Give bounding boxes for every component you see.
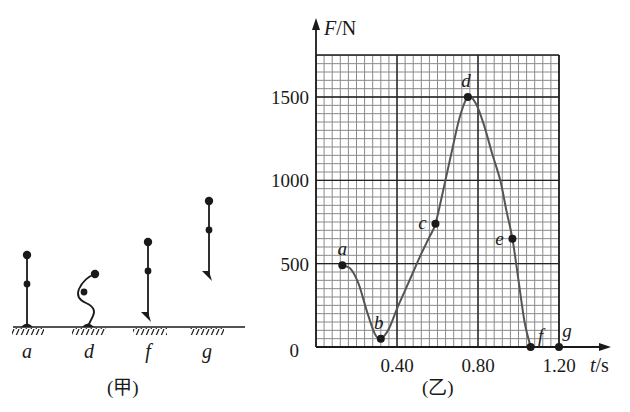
point-label-e: e (495, 228, 503, 249)
stick-figure-f (141, 238, 152, 322)
y-axis-arrow-icon (312, 18, 320, 30)
data-point-e (508, 235, 516, 243)
ground-hatch (72, 328, 106, 335)
data-point-d (464, 93, 472, 101)
stick-figure-d (78, 270, 99, 327)
stick-figure-a (21, 251, 33, 327)
x-tick-label: 0.40 (380, 355, 413, 376)
ground-hatch (133, 328, 167, 335)
point-label-f: f (538, 325, 546, 346)
point-label-b: b (374, 312, 384, 333)
x-axis-label: t/s (590, 354, 609, 376)
figure-canvas: a d f g F/Nt/s5001000150000.400.801.20 a… (0, 0, 630, 412)
data-point-a (338, 261, 346, 269)
x-axis-arrow-icon (599, 343, 611, 351)
ground-hatch (190, 328, 224, 335)
point-label-c: c (418, 212, 427, 233)
right-figure-caption: (乙) (422, 372, 454, 399)
stick-figure-g (202, 197, 213, 281)
point-label-d: d (461, 70, 471, 91)
figure-label-g: g (202, 340, 212, 363)
figure-label-a: a (22, 340, 32, 362)
data-point-f (527, 343, 535, 351)
x-tick-label: 0.80 (461, 355, 494, 376)
force-time-chart: F/Nt/s5001000150000.400.801.20 abcdefg (271, 17, 611, 376)
data-point-b (377, 335, 385, 343)
x-tick-label: 1.20 (542, 355, 575, 376)
figure-label-d: d (84, 340, 95, 362)
ground-hatch (12, 328, 44, 335)
origin-label: 0 (290, 340, 300, 361)
point-label-a: a (338, 238, 348, 259)
y-tick-label: 500 (281, 254, 310, 275)
jump-sequence-diagram: a d f g (12, 197, 245, 363)
figure-label-f: f (145, 340, 153, 363)
left-figure-caption: (甲) (107, 372, 139, 399)
y-tick-label: 1500 (271, 87, 309, 108)
y-tick-label: 1000 (271, 170, 309, 191)
y-axis-label: F/N (323, 17, 356, 39)
data-point-g (555, 343, 563, 351)
point-label-g: g (562, 320, 572, 341)
data-point-c (431, 220, 439, 228)
